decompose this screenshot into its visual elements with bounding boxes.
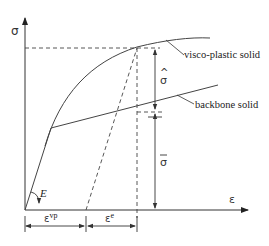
- backbone-solid-curve: [25, 85, 218, 210]
- modulus-label: E: [39, 187, 47, 199]
- strain-dimensions: [25, 216, 137, 232]
- visco-plastic-leader: [166, 40, 184, 55]
- epsilon-vp-label: εvp: [44, 211, 57, 224]
- stress-strain-diagram: σ ε ^ σ σ visco-plastic solid backbone s…: [0, 0, 269, 246]
- epsilon-axis-label: ε: [229, 193, 235, 206]
- axes: σ ε: [11, 18, 248, 210]
- backbone-leader: [177, 95, 194, 104]
- sigma-axis-label: σ: [11, 24, 19, 38]
- sigma-bar-label: σ: [160, 156, 167, 169]
- epsilon-e-label: εe: [105, 211, 114, 224]
- sigma-hat-label: σ: [160, 74, 167, 87]
- unloading-dashed-line: [86, 48, 137, 210]
- visco-plastic-solid-label: visco-plastic solid: [184, 49, 261, 60]
- modulus-arc: [31, 192, 39, 203]
- backbone-solid-label: backbone solid: [195, 99, 259, 110]
